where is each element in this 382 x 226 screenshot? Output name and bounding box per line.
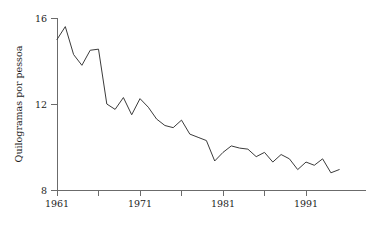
y-axis-title: Quilogramas por pessoa xyxy=(13,45,24,162)
x-tick-label-1971: 1971 xyxy=(128,198,152,209)
y-tick-label-12: 12 xyxy=(35,99,47,110)
y-tick-label-8: 8 xyxy=(41,185,47,196)
chart-container: 16 12 8 Quilogramas por pessoa 1961 1971… xyxy=(0,0,382,226)
y-tick-label-16: 16 xyxy=(35,13,47,24)
y-tick-group xyxy=(51,18,57,190)
x-tick-group xyxy=(57,190,306,196)
data-series-line xyxy=(57,27,339,173)
x-tick-label-1991: 1991 xyxy=(294,198,318,209)
x-tick-label-1981: 1981 xyxy=(211,198,235,209)
x-axis-group: 1961 1971 1981 1991 xyxy=(45,190,366,209)
line-chart: 16 12 8 Quilogramas por pessoa 1961 1971… xyxy=(0,0,382,226)
x-tick-label-1961: 1961 xyxy=(45,198,69,209)
y-axis-group: 16 12 8 Quilogramas por pessoa xyxy=(13,13,57,196)
